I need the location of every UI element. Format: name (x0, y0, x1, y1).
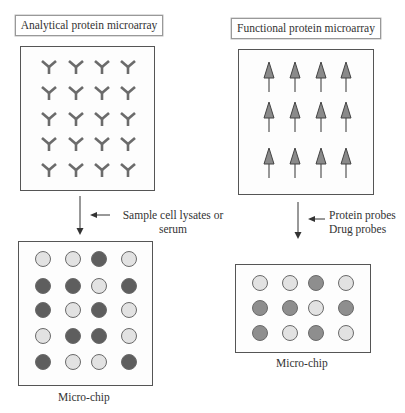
antibody-y-icon (42, 61, 56, 74)
spot-dark (36, 355, 51, 370)
spot-dark (92, 329, 107, 344)
spot-light (92, 355, 107, 370)
functional-chip-label: Micro-chip (276, 356, 328, 370)
spot-light (253, 276, 268, 291)
spot-dark (122, 279, 137, 294)
antibody-y-icon (121, 138, 135, 151)
spot-dark (36, 303, 51, 318)
spot-light (92, 279, 107, 294)
spot-light (36, 329, 51, 344)
spot-dark (66, 329, 81, 344)
spot-mid (309, 276, 324, 291)
spot-mid (253, 301, 268, 316)
antibody-y-icon (95, 113, 109, 126)
antibody-y-icon (42, 138, 56, 151)
spot-dark (66, 279, 81, 294)
analytical-chip-label: Micro-chip (58, 390, 110, 404)
spot-light (66, 355, 81, 370)
protein-probe-icon (316, 148, 326, 178)
protein-probe-icon (290, 102, 300, 132)
protein-probe-icon (341, 102, 351, 132)
protein-probe-icon (316, 62, 326, 92)
protein-probe-icon (264, 62, 274, 92)
sample-label-line1: Sample cell lysates or (113, 208, 233, 222)
spot-light (66, 252, 81, 267)
antibody-y-icon (69, 87, 83, 100)
spot-light (36, 252, 51, 267)
spot-light (283, 276, 298, 291)
antibody-grid (21, 47, 154, 190)
antibody-y-icon (121, 61, 135, 74)
functional-spot-grid (236, 265, 370, 352)
analytical-spot-grid (19, 242, 152, 385)
spot-light (122, 303, 137, 318)
antibody-y-icon (121, 113, 135, 126)
antibody-y-icon (69, 113, 83, 126)
spot-mid (283, 301, 298, 316)
spot-mid (309, 326, 324, 341)
spot-light (122, 329, 137, 344)
spot-dark (36, 279, 51, 294)
antibody-y-icon (42, 87, 56, 100)
spot-light (309, 301, 324, 316)
antibody-y-icon (95, 164, 109, 177)
antibody-y-icon (42, 164, 56, 177)
protein-probe-icon (290, 62, 300, 92)
protein-probe-icon (264, 102, 274, 132)
spot-mid (253, 326, 268, 341)
antibody-y-icon (95, 87, 109, 100)
antibody-y-icon (95, 138, 109, 151)
spot-light (339, 276, 354, 291)
analytical-array-panel (20, 46, 155, 191)
protein-probe-icon (341, 62, 351, 92)
analytical-microchip (18, 241, 153, 386)
probes-label-line2: Drug probes (329, 222, 396, 236)
antibody-y-icon (121, 164, 135, 177)
spot-dark (92, 303, 107, 318)
functional-microchip (235, 264, 371, 353)
protein-probe-icon (264, 148, 274, 178)
down-arrow-icon (293, 202, 303, 242)
antibody-y-icon (95, 61, 109, 74)
spot-dark (122, 355, 137, 370)
protein-probe-icon (290, 148, 300, 178)
functional-title: Functional protein microarray (237, 22, 375, 34)
antibody-y-icon (69, 138, 83, 151)
down-arrow-icon (75, 196, 85, 236)
spot-dark (92, 252, 107, 267)
antibody-y-icon (69, 164, 83, 177)
antibody-y-icon (121, 87, 135, 100)
sample-label-line2: serum (113, 222, 233, 236)
left-pointing-arrow-icon (90, 211, 112, 219)
analytical-title-box: Analytical protein microarray (15, 15, 163, 36)
antibody-y-icon (69, 61, 83, 74)
left-pointing-arrow-icon (308, 215, 326, 223)
functional-title-box: Functional protein microarray (231, 18, 381, 39)
spot-light (283, 326, 298, 341)
probes-label: Protein probes Drug probes (329, 208, 396, 236)
spot-mid (339, 301, 354, 316)
sample-label: Sample cell lysates or serum (113, 208, 233, 236)
analytical-title: Analytical protein microarray (21, 19, 158, 31)
functional-array-panel (238, 49, 374, 195)
probes-label-line1: Protein probes (329, 208, 396, 222)
protein-probe-icon (316, 102, 326, 132)
antibody-y-icon (42, 113, 56, 126)
spot-light (339, 326, 354, 341)
protein-probe-icon (341, 148, 351, 178)
spot-light (66, 303, 81, 318)
protein-probe-grid (239, 50, 373, 194)
spot-light (122, 252, 137, 267)
